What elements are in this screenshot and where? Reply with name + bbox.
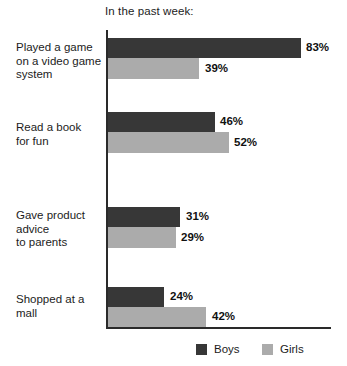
bar-girls-shopped-at-a-mall (108, 307, 206, 327)
bar-value-boys-gave-product-advice: 31% (186, 210, 209, 222)
bar-value-girls-shopped-at-a-mall: 42% (212, 310, 235, 322)
bar-chart: In the past week: Played a game on a vid… (0, 0, 347, 366)
bar-girls-read-a-book (108, 132, 229, 153)
category-label-line: to parents (16, 236, 104, 250)
category-label-line: advice (16, 223, 104, 237)
legend-label-boys: Boys (214, 343, 240, 355)
category-label-read-a-book: Read a book for fun (16, 121, 104, 148)
category-label-gave-product-advice: Gave product advice to parents (16, 209, 104, 250)
legend-item-girls: Girls (262, 343, 304, 355)
category-label-line: Played a game (16, 41, 104, 55)
category-label-line: Shopped at a (16, 293, 104, 307)
category-label-line: system (16, 68, 104, 82)
category-label-line: Read a book (16, 121, 104, 135)
chart-legend: Boys Girls (0, 340, 347, 362)
bar-value-boys-read-a-book: 46% (220, 115, 243, 127)
category-label-line: for fun (16, 135, 104, 149)
legend-item-boys: Boys (196, 343, 240, 355)
bar-value-girls-played-a-game: 39% (205, 62, 228, 74)
bar-boys-gave-product-advice (108, 207, 180, 227)
category-label-line: Gave product (16, 209, 104, 223)
chart-title: In the past week: (105, 5, 194, 17)
bar-value-girls-read-a-book: 52% (234, 136, 257, 148)
bar-boys-read-a-book (108, 112, 215, 132)
bar-girls-played-a-game (108, 58, 199, 79)
category-label-line: on a video game (16, 55, 104, 69)
legend-swatch-girls-icon (262, 344, 273, 355)
legend-swatch-boys-icon (196, 344, 207, 355)
bar-boys-shopped-at-a-mall (108, 287, 164, 307)
bar-boys-played-a-game (108, 38, 301, 58)
x-axis-line (106, 327, 331, 329)
category-label-shopped-at-a-mall: Shopped at a mall (16, 293, 104, 320)
category-label-played-a-game: Played a game on a video game system (16, 41, 104, 82)
legend-label-girls: Girls (280, 343, 304, 355)
category-label-line: mall (16, 307, 104, 321)
bar-girls-gave-product-advice (108, 227, 176, 248)
bar-value-girls-gave-product-advice: 29% (181, 231, 204, 243)
bar-value-boys-shopped-at-a-mall: 24% (170, 290, 193, 302)
bar-value-boys-played-a-game: 83% (306, 41, 329, 53)
